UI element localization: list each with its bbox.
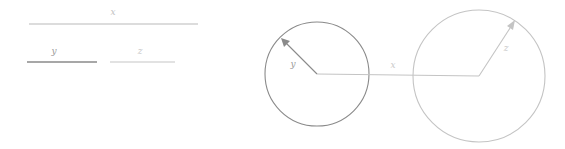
segment-y-label: y [50, 46, 57, 56]
interval-panel: x y z [27, 7, 198, 62]
vector-y-label: y [289, 59, 296, 69]
vector-x-label: x [390, 60, 395, 70]
vector-z-label: z [503, 43, 509, 53]
vector-x-line [317, 74, 479, 76]
segment-z-label: z [137, 46, 143, 56]
circles-panel: x y z [265, 10, 545, 142]
geometry-diagram: x y z x y z [0, 0, 565, 149]
segment-x-label: x [110, 7, 115, 17]
vector-z-arrowhead [507, 20, 515, 30]
vector-y-line [285, 42, 317, 74]
